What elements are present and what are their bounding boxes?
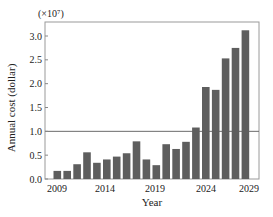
bar-2015 <box>113 157 121 179</box>
x-tick-label: 2024 <box>196 183 216 194</box>
y-tick-label: 1.0 <box>30 126 43 137</box>
y-tick-label: 0.5 <box>30 150 43 161</box>
bar-2021 <box>172 149 180 179</box>
bar-2017 <box>133 141 141 179</box>
x-tick-label: 2029 <box>239 183 259 194</box>
bar-2016 <box>123 153 131 179</box>
bar-2010 <box>63 171 71 179</box>
bar-2020 <box>162 144 170 179</box>
y-multiplier-label: (×10⁷) <box>38 8 64 20</box>
bar-2023 <box>192 128 200 179</box>
bar-2018 <box>143 159 151 179</box>
bar-2027 <box>232 48 240 179</box>
x-axis: 20092014201920242029 <box>47 183 259 194</box>
bar-2012 <box>83 152 91 179</box>
y-tick-label: 3.0 <box>30 31 43 42</box>
bar-2019 <box>153 165 161 179</box>
bar-2026 <box>222 58 230 179</box>
bar-2011 <box>73 164 81 179</box>
y-axis-title: Annual cost (dollar) <box>5 63 18 152</box>
x-tick-label: 2009 <box>47 183 67 194</box>
y-tick-label: 0.0 <box>30 174 43 185</box>
x-tick-label: 2014 <box>95 183 115 194</box>
bars <box>54 30 250 179</box>
y-tick-label: 2.5 <box>30 54 43 65</box>
bar-2009 <box>54 171 62 179</box>
bar-2024 <box>202 87 210 179</box>
bar-2028 <box>242 30 250 179</box>
bar-2014 <box>103 159 111 179</box>
bar-2013 <box>93 163 101 179</box>
x-axis-title: Year <box>142 196 163 208</box>
x-tick-label: 2019 <box>145 183 165 194</box>
bar-2022 <box>182 142 190 179</box>
bar-chart: 0.00.51.01.52.02.53.0 200920142019202420… <box>0 0 273 217</box>
bar-2025 <box>212 90 220 179</box>
y-tick-label: 1.5 <box>30 102 43 113</box>
y-tick-label: 2.0 <box>30 78 43 89</box>
